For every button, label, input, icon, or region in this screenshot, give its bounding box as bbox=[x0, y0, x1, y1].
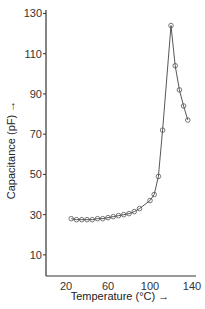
y-tick-label: 110 bbox=[24, 48, 42, 60]
y-tick-label: 130 bbox=[24, 7, 42, 19]
y-tick-label: 70 bbox=[30, 128, 42, 140]
y-axis-title: Capacitance (pF) → bbox=[5, 101, 17, 199]
x-tick-label: 140 bbox=[183, 280, 201, 292]
series-line bbox=[71, 26, 188, 220]
y-tick-label: 30 bbox=[30, 209, 42, 221]
y-tick-label: 50 bbox=[30, 168, 42, 180]
y-tick-label: 10 bbox=[30, 249, 42, 261]
y-axis: 1030507090110130 bbox=[24, 7, 46, 276]
y-tick-label: 90 bbox=[30, 88, 42, 100]
data-series bbox=[69, 23, 190, 222]
x-axis-title: Temperature (°C) → bbox=[71, 290, 170, 302]
capacitance-temperature-chart: 1030507090110130 2060100140 Capacitance … bbox=[0, 0, 205, 309]
